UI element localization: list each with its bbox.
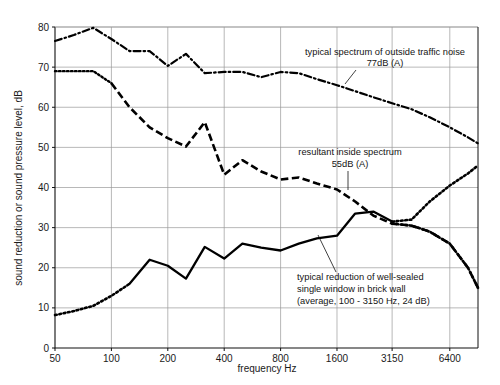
x-tick-label: 6400 bbox=[439, 353, 462, 364]
y-tick-label: 0 bbox=[43, 343, 49, 354]
y-tick-label: 20 bbox=[38, 262, 50, 273]
y-tick-label: 60 bbox=[38, 102, 50, 113]
annotation-outside-line-1: typical spectrum of outside traffic nois… bbox=[305, 47, 465, 57]
y-axis-title: sound reduction or sound pressure level,… bbox=[13, 90, 24, 286]
y-tick-label: 80 bbox=[38, 22, 50, 33]
chart-background bbox=[0, 0, 500, 385]
x-tick-label: 200 bbox=[159, 353, 176, 364]
annotation-inside-line-1: resultant inside spectrum bbox=[298, 147, 402, 157]
annotation-inside-line-2: 55dB (A) bbox=[332, 159, 369, 169]
sound-reduction-chart: 50100200400800160031506400 0102030405060… bbox=[0, 0, 500, 385]
y-tick-label: 40 bbox=[38, 182, 50, 193]
chart-container: 50100200400800160031506400 0102030405060… bbox=[0, 0, 500, 385]
annotation-outside-line-2: 77dB (A) bbox=[367, 58, 404, 68]
x-tick-label: 1600 bbox=[326, 353, 349, 364]
annotation-window-line-3: (average, 100 - 3150 Hz, 24 dB) bbox=[297, 296, 430, 306]
x-tick-label: 100 bbox=[103, 353, 120, 364]
x-tick-label: 50 bbox=[49, 353, 61, 364]
y-tick-label: 70 bbox=[38, 62, 50, 73]
annotation-window-line-2: single window in brick wall bbox=[297, 284, 406, 294]
y-tick-label: 10 bbox=[38, 302, 50, 313]
y-tick-label: 50 bbox=[38, 142, 50, 153]
y-axis-tick-labels: 01020304050607080 bbox=[38, 22, 50, 354]
annotation-window-line-1: typical reduction of well-sealed bbox=[297, 272, 424, 282]
y-tick-label: 30 bbox=[38, 222, 50, 233]
x-tick-label: 400 bbox=[216, 353, 233, 364]
x-axis-title: frequency Hz bbox=[238, 363, 297, 374]
x-tick-label: 3150 bbox=[381, 353, 404, 364]
